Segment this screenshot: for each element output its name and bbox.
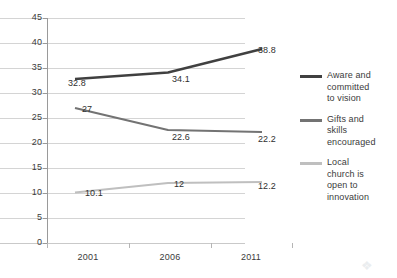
legend-label-series-2-line-4: innovation <box>327 192 397 204</box>
legend-label-series-2-line-2: church is <box>327 169 397 181</box>
data-label-s0-2006: 34.1 <box>172 75 190 84</box>
data-label-s1-2006: 22.6 <box>172 133 190 142</box>
data-label-s1-2011: 22.2 <box>258 135 276 144</box>
legend-label-series-0-line-2: committed <box>327 82 397 94</box>
legend-item-gifts-and-skills-encouraged[interactable]: Gifts and skills encouraged <box>300 114 397 149</box>
legend-label-series-1-line-2: skills <box>327 125 397 137</box>
legend-label-series-0-line-3: to vision <box>327 93 397 105</box>
chart-legend: Aware and committed to vision Gifts and … <box>300 70 397 212</box>
data-label-s2-2001: 10.1 <box>85 189 103 198</box>
data-label-s0-2001: 32.8 <box>68 79 86 88</box>
scan-artifact: ❖ <box>361 258 387 274</box>
legend-swatch-series-2 <box>300 162 322 165</box>
legend-label-series-2-line-1: Local <box>327 157 397 169</box>
legend-label-series-2-line-3: open to <box>327 180 397 192</box>
data-label-s1-2001: 27 <box>82 105 92 114</box>
legend-item-aware-and-committed-to-vision[interactable]: Aware and committed to vision <box>300 70 397 105</box>
legend-label-series-0-line-1: Aware and <box>327 70 397 82</box>
legend-label-series-1-line-1: Gifts and <box>327 114 397 126</box>
legend-swatch-series-1 <box>300 119 322 122</box>
legend-label-series-1: Gifts and skills encouraged <box>327 114 397 149</box>
data-label-s2-2006: 12 <box>174 180 184 189</box>
legend-swatch-series-0 <box>300 75 322 78</box>
legend-label-series-2: Local church is open to innovation <box>327 157 397 203</box>
legend-item-local-church-is-open-to-innovation[interactable]: Local church is open to innovation <box>300 157 397 203</box>
data-label-s0-2011: 38.8 <box>258 46 276 55</box>
line-chart: 45 40 35 30 25 20 15 10 5 0 2001 2006 20… <box>0 0 397 278</box>
data-label-s2-2011: 12.2 <box>258 182 276 191</box>
legend-label-series-1-line-3: encouraged <box>327 137 397 149</box>
legend-label-series-0: Aware and committed to vision <box>327 70 397 105</box>
